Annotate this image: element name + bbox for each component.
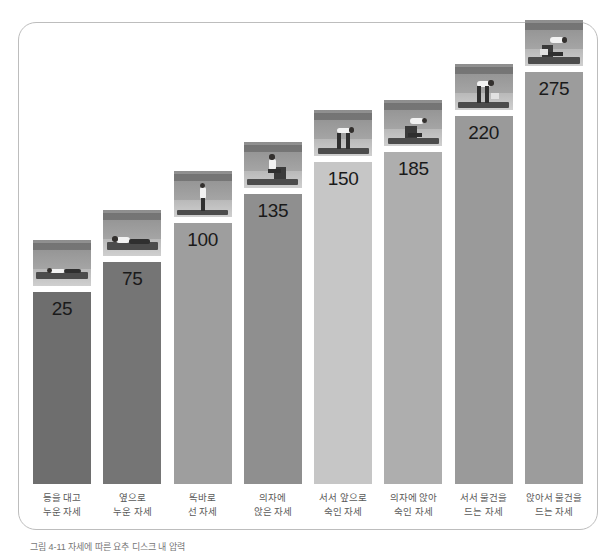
sitting-bent-forward-photo: [384, 100, 442, 146]
bar-standing-upright[interactable]: 100: [174, 223, 232, 484]
bar-column-supine-lying: 25 등을 대고 누운 자세: [33, 33, 91, 519]
chart-frame: 25 등을 대고 누운 자세 75 옆으로 누운 자세: [18, 22, 598, 530]
bar-label: 앉아서 물건을 드는 자세: [518, 491, 590, 519]
bar-column-standing-bent-forward: 150 서서 앞으로 숙인 자세: [314, 33, 372, 519]
bar-label: 의자에 앉은 자세: [237, 491, 309, 519]
bar-supine-lying[interactable]: 25: [33, 292, 91, 484]
sitting-lifting-photo: [525, 20, 583, 66]
bar-sitting-bent-forward[interactable]: 185: [384, 152, 442, 484]
supine-lying-photo: [33, 240, 91, 286]
bar-value: 25: [52, 299, 73, 318]
bar-side-lying[interactable]: 75: [103, 262, 161, 484]
bar-column-standing-upright: 100 똑바로 선 자세: [174, 33, 232, 519]
bar-value: 100: [187, 230, 218, 249]
bar-value: 75: [122, 269, 143, 288]
bar-column-sitting-bent-forward: 185 의자에 앉아 숙인 자세: [384, 33, 442, 519]
bar-column-sitting-chair: 135 의자에 앉은 자세: [244, 33, 302, 519]
bar-label: 서서 물건을 드는 자세: [448, 491, 520, 519]
bar-standing-lifting[interactable]: 220: [455, 116, 513, 484]
bar-label: 옆으로 누운 자세: [96, 491, 168, 519]
bar-value: 185: [398, 159, 429, 178]
side-lying-photo: [103, 210, 161, 256]
bar-sitting-chair[interactable]: 135: [244, 194, 302, 484]
sitting-chair-photo: [244, 142, 302, 188]
bar-value: 275: [539, 79, 570, 98]
bar-value: 150: [328, 169, 359, 188]
bar-column-sitting-lifting: 275 앉아서 물건을 드는 자세: [525, 33, 583, 519]
bar-column-side-lying: 75 옆으로 누운 자세: [103, 33, 161, 519]
bar-label: 의자에 앉아 숙인 자세: [377, 491, 449, 519]
bar-label: 서서 앞으로 숙인 자세: [307, 491, 379, 519]
bar-value: 220: [468, 123, 499, 142]
figure-caption: 그림 4-11 자세에 따른 요추 디스크 내 압력: [30, 540, 185, 553]
bar-value: 135: [257, 201, 288, 220]
standing-lifting-photo: [455, 64, 513, 110]
standing-upright-photo: [174, 171, 232, 217]
standing-bent-forward-photo: [314, 110, 372, 156]
bar-label: 똑바로 선 자세: [167, 491, 239, 519]
bar-chart-plot-area: 25 등을 대고 누운 자세 75 옆으로 누운 자세: [33, 33, 583, 519]
bar-standing-bent-forward[interactable]: 150: [314, 162, 372, 484]
bar-column-standing-lifting: 220 서서 물건을 드는 자세: [455, 33, 513, 519]
bar-label: 등을 대고 누운 자세: [26, 491, 98, 519]
bar-sitting-lifting[interactable]: 275: [525, 72, 583, 484]
